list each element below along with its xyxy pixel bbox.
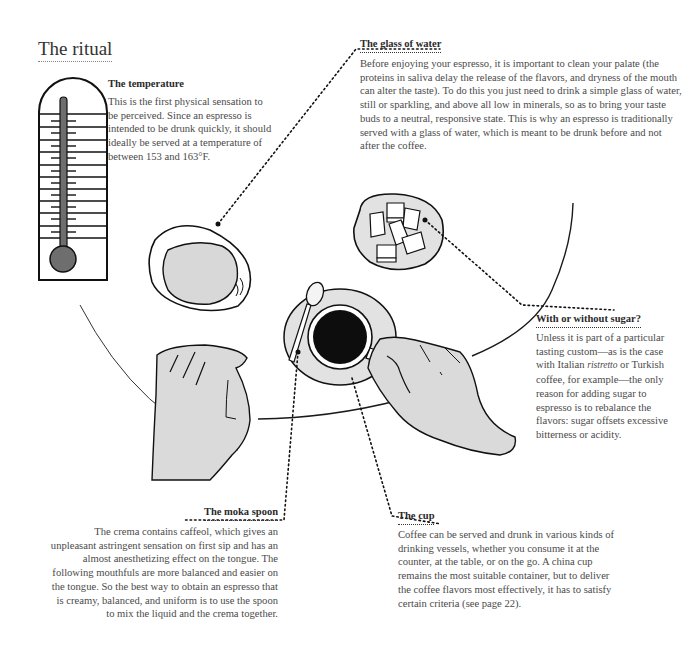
section-moka-spoon: The moka spoon The crema contains caffeo… [50, 505, 278, 621]
temperature-body: This is the first physical sensation to … [108, 95, 273, 164]
table-edge [80, 305, 238, 450]
leader-dot-water [216, 222, 221, 227]
sugar-dish-icon [354, 194, 443, 270]
cup-heading: The cup [398, 509, 623, 525]
espresso-cup-icon [284, 289, 396, 385]
water-heading-text: The glass of water [360, 37, 441, 53]
section-glass-of-water: The glass of water Before enjoying your … [360, 37, 682, 153]
spoon-heading: The moka spoon [50, 505, 278, 521]
table-edge-right [258, 400, 400, 419]
leader-spoon [185, 352, 298, 520]
leader-dot-spoon [296, 350, 301, 355]
page-title: The ritual [38, 38, 112, 62]
sugar-body-italic: ristretto [587, 360, 617, 370]
spoon-heading-text: The moka spoon [204, 505, 278, 521]
leader-sugar [425, 220, 614, 310]
water-body: Before enjoying your espresso, it is imp… [360, 57, 682, 153]
left-hand-icon [152, 345, 250, 480]
sugar-heading: With or without sugar? [536, 312, 682, 328]
glass-of-water-icon [149, 226, 250, 311]
section-sugar: With or without sugar? Unless it is part… [536, 312, 682, 442]
cup-body: Coffee can be served and drunk in variou… [398, 528, 623, 610]
leader-cup [352, 378, 441, 524]
section-cup: The cup Coffee can be served and drunk i… [398, 509, 623, 610]
spoon-icon [289, 280, 327, 362]
water-heading: The glass of water [360, 37, 682, 53]
section-temperature: The temperature This is the first physic… [108, 77, 273, 164]
right-hand-icon [368, 337, 515, 455]
sugar-body: Unless it is part of a particular tastin… [536, 331, 682, 442]
sugar-body-after: or Turkish coffee, for example—the only … [536, 359, 668, 440]
cup-heading-text: The cup [398, 509, 434, 525]
sugar-heading-text: With or without sugar? [536, 312, 641, 328]
spoon-body: The crema contains caffeol, which gives … [50, 525, 278, 621]
thermometer-icon [39, 78, 107, 280]
leader-dot-sugar [423, 218, 428, 223]
temperature-heading: The temperature [108, 77, 273, 91]
